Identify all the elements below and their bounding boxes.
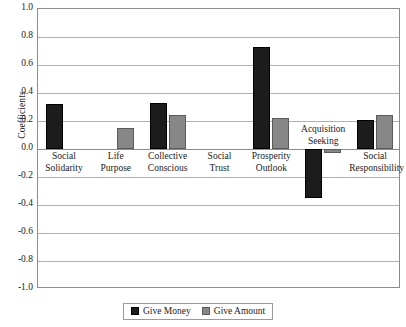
bar-give-amount (376, 115, 393, 149)
bar-give-amount (324, 149, 341, 153)
bar-give-amount (169, 115, 186, 149)
y-axis-tick: -1.0 (2, 283, 33, 293)
bar-give-money (46, 104, 63, 149)
bars-layer (38, 9, 399, 287)
y-axis-tick: 0.8 (2, 31, 33, 41)
y-axis-tick: 0.0 (2, 143, 33, 153)
y-axis-tick: -0.8 (2, 255, 33, 265)
plot-area: SocialSolidarityLifePurposeCollectiveCon… (37, 8, 400, 288)
bar-chart: Coefficients 1.00.80.60.40.20.0-0.2-0.4-… (0, 0, 406, 327)
y-axis-tick: -0.2 (2, 171, 33, 181)
bar-give-money (150, 103, 167, 149)
bar-give-money (253, 47, 270, 149)
bar-group (142, 9, 194, 287)
legend-item[interactable]: Give Amount (202, 306, 265, 316)
y-axis-tick: 1.0 (2, 3, 33, 13)
y-axis-tick: 0.2 (2, 115, 33, 125)
bar-give-amount (117, 128, 134, 149)
bar-group (349, 9, 401, 287)
y-axis-tick: -0.4 (2, 199, 33, 209)
legend-swatch-amount (202, 307, 210, 315)
legend-label: Give Money (143, 306, 191, 316)
legend-item[interactable]: Give Money (131, 306, 191, 316)
bar-group (38, 9, 90, 287)
y-axis-tick: 0.4 (2, 87, 33, 97)
y-axis-tick: 0.6 (2, 59, 33, 69)
bar-give-amount (272, 118, 289, 149)
legend-swatch-money (131, 307, 139, 315)
bar-group (297, 9, 349, 287)
bar-give-money (305, 149, 322, 198)
bar-give-money (357, 120, 374, 149)
legend-label: Give Amount (214, 306, 265, 316)
y-axis-tick-labels: 1.00.80.60.40.20.0-0.2-0.4-0.6-0.8-1.0 (2, 8, 33, 288)
bar-group (90, 9, 142, 287)
chart-legend: Give MoneyGive Amount (123, 303, 273, 320)
bar-group (194, 9, 246, 287)
bar-group (245, 9, 297, 287)
y-axis-tick: -0.6 (2, 227, 33, 237)
